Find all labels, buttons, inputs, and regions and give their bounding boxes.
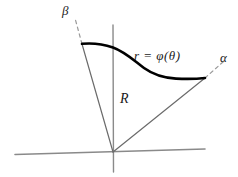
polar-region-diagram: β α R r = φ(θ) [0,0,238,177]
horizontal-axis [15,149,205,155]
beta-ray [82,44,113,152]
beta-angle-label: β [62,4,68,17]
diagram-canvas [0,0,238,177]
beta-ray-dashed-extension [76,20,83,44]
alpha-ray [113,78,205,152]
region-label: R [120,92,129,106]
alpha-angle-label: α [220,51,227,64]
curve-equation-label: r = φ(θ) [134,49,181,62]
